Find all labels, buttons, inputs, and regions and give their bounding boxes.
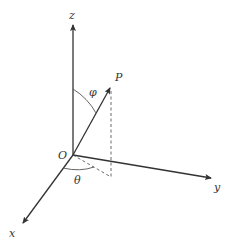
x-axis (23, 155, 73, 223)
phi-label: φ (89, 86, 97, 99)
theta-label: θ (74, 174, 81, 187)
point-p-label: P (114, 71, 123, 84)
y-axis-label: y (213, 181, 221, 194)
origin-label: O (58, 149, 67, 162)
spherical-coordinates-diagram: z y x O P φ θ (0, 0, 232, 246)
y-axis (73, 155, 211, 178)
z-axis-label: z (68, 9, 75, 22)
x-axis-label: x (9, 227, 16, 240)
theta-arc (63, 167, 94, 170)
